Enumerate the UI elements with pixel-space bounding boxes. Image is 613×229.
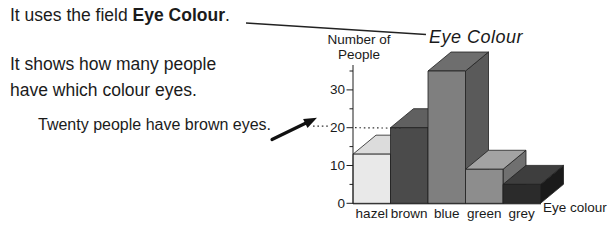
category-label-green: green xyxy=(467,206,502,221)
y-tick-label-0: 0 xyxy=(337,196,345,211)
category-label-brown: brown xyxy=(391,206,428,221)
category-label-hazel: hazel xyxy=(356,206,388,221)
figure: It uses the field Eye Colour. It shows h… xyxy=(0,0,613,229)
dotted-reference-line xyxy=(313,126,403,128)
y-tick-label-20: 20 xyxy=(330,120,345,135)
callout-arrow-head xyxy=(303,118,317,128)
y-tick-label-30: 30 xyxy=(330,82,345,97)
callout-arrow-shaft xyxy=(272,123,306,140)
category-label-blue: blue xyxy=(434,206,460,221)
chart-title: Eye Colour xyxy=(429,27,524,47)
chart-svg: hazelbrownbluegreengrey 0102030 Number o… xyxy=(0,0,613,229)
y-axis-ticks: 0102030 xyxy=(330,71,353,211)
x-axis-label: Eye colour xyxy=(543,200,607,215)
y-tick-label-10: 10 xyxy=(330,158,345,173)
y-axis-label-line2: People xyxy=(338,47,380,62)
y-axis-label-line1: Number of xyxy=(327,32,390,47)
bars: hazelbrownbluegreengrey xyxy=(353,52,564,221)
category-label-grey: grey xyxy=(509,206,536,221)
